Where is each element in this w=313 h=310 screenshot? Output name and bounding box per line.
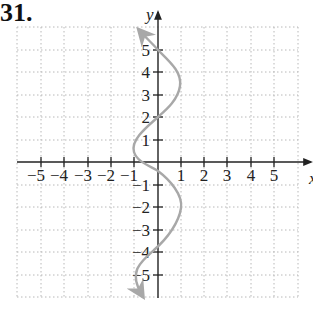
x-tick-label: −3 — [74, 166, 92, 185]
y-tick-label: −3 — [132, 221, 150, 240]
y-tick-label: 4 — [142, 63, 151, 82]
y-tick-label: 1 — [142, 131, 151, 150]
x-tick-label: −2 — [97, 166, 115, 185]
y-tick-label: −2 — [132, 198, 150, 217]
x-axis-label: x — [308, 169, 313, 188]
x-tick-label: 4 — [247, 166, 256, 185]
x-tick-label: 1 — [177, 166, 186, 185]
x-tick-label: −4 — [50, 166, 69, 185]
x-tick-label: 2 — [200, 166, 209, 185]
y-tick-label: −5 — [132, 266, 150, 285]
y-axis-label: y — [144, 5, 154, 24]
y-tick-label: 5 — [142, 41, 151, 60]
x-tick-label: 5 — [270, 166, 279, 185]
x-tick-label: −5 — [27, 166, 45, 185]
y-tick-labels: 5 4 3 2 1 −1 −2 −3 −4 −5 — [132, 41, 151, 285]
x-tick-label: 3 — [223, 166, 232, 185]
y-tick-label: 3 — [142, 86, 151, 105]
y-tick-label: −1 — [132, 176, 150, 195]
coordinate-graph: −5 −4 −3 −2 −1 1 2 3 4 5 5 4 3 2 1 −1 −2… — [0, 0, 313, 310]
y-tick-label: −4 — [132, 243, 151, 262]
